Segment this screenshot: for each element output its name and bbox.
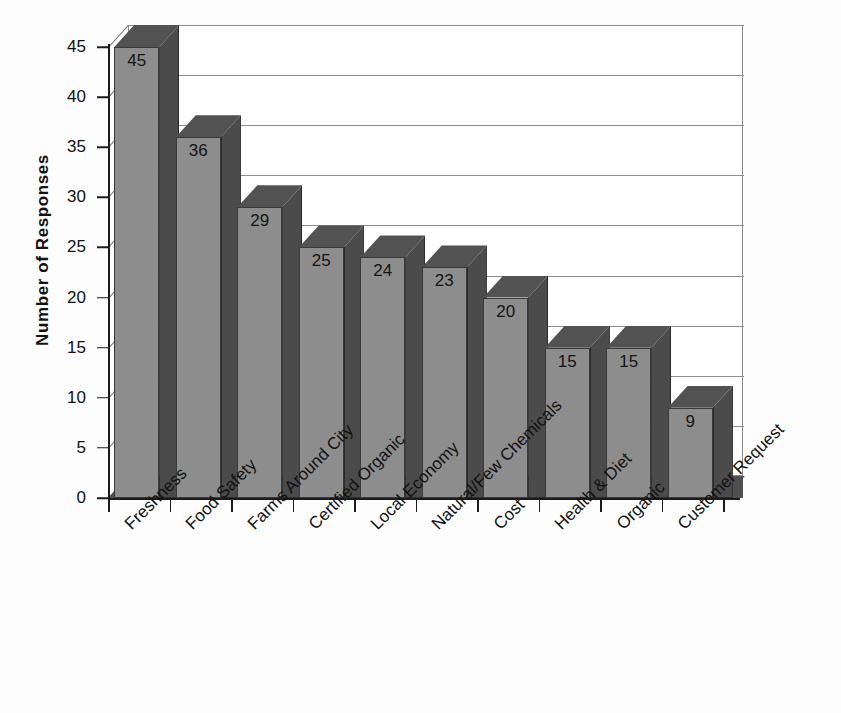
y-axis-tick-label: 15 (30, 338, 86, 358)
y-axis-tick-mark (97, 297, 108, 299)
x-axis-tick-mark (170, 498, 172, 512)
y-axis-tick-label: 10 (30, 388, 86, 408)
y-axis-tick-label: 30 (30, 187, 86, 207)
bar-front-face (114, 47, 159, 498)
y-axis-tick-label: 0 (30, 488, 86, 508)
y-axis-line (108, 44, 110, 500)
y-axis-tick-mark (97, 96, 108, 98)
x-axis-tick-mark (723, 498, 725, 512)
y-axis-tick-mark (97, 247, 108, 249)
chart-page: Number of Responses 454035302520151050 4… (0, 0, 841, 713)
bar-front-face (237, 207, 282, 498)
x-axis-tick-mark (293, 498, 295, 512)
y-axis-tick-label: 35 (30, 137, 86, 157)
y-axis-tick-mark (97, 146, 108, 148)
y-axis-tick-label: 20 (30, 288, 86, 308)
y-axis-tick-mark (97, 197, 108, 199)
y-axis-tick-mark (97, 397, 108, 399)
x-axis-tick-mark (539, 498, 541, 512)
bar-front-face (668, 408, 713, 498)
x-axis-tick-mark (354, 498, 356, 512)
gridline (128, 75, 744, 76)
y-axis-tick-label: 40 (30, 87, 86, 107)
y-axis-tick-label: 5 (30, 438, 86, 458)
x-axis-tick-mark (600, 498, 602, 512)
x-axis-tick-mark (108, 498, 110, 512)
y-axis-tick-label: 45 (30, 37, 86, 57)
y-axis-tick-mark (97, 447, 108, 449)
bar-column[interactable] (237, 185, 302, 498)
x-axis-tick-mark (231, 498, 233, 512)
y-axis-tick-mark (97, 46, 108, 48)
x-axis-tick-mark (416, 498, 418, 512)
gridline (128, 25, 744, 26)
y-axis-tick-mark (97, 497, 108, 499)
x-axis-tick-mark (477, 498, 479, 512)
y-axis-tick-mark (97, 347, 108, 349)
y-axis-tick-label: 25 (30, 237, 86, 257)
bar-column[interactable] (114, 25, 179, 498)
bar-column[interactable] (176, 115, 241, 498)
plot-area: 454035302520151050 4536292524232015159 F… (0, 0, 841, 713)
x-axis-tick-mark (662, 498, 664, 512)
bar-front-face (176, 137, 221, 498)
x-axis-category-label: Cost (490, 495, 529, 534)
